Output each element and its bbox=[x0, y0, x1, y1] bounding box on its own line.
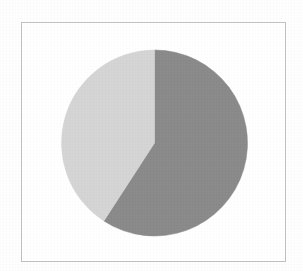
pie-chart-svg bbox=[0, 0, 303, 271]
pie-chart-container bbox=[0, 0, 303, 271]
pie-chart-figure: Pie chart with two gray slices bbox=[0, 0, 303, 271]
pie-slice-group bbox=[61, 50, 247, 236]
